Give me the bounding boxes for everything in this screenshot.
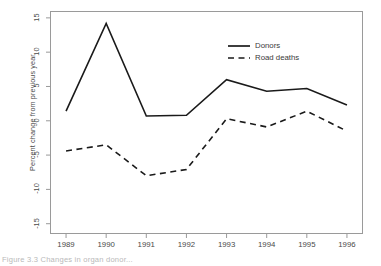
- solid-line-key: [228, 41, 250, 51]
- y-tick-label: 10: [32, 42, 41, 62]
- y-tick-label: 5: [32, 76, 41, 96]
- series-line-road-deaths: [66, 111, 347, 175]
- y-tick-label: -15: [32, 213, 41, 233]
- y-tick-label: 15: [32, 7, 41, 27]
- plot-lines: [50, 11, 363, 234]
- dashed-line-key: [228, 53, 250, 63]
- x-tick-label: 1991: [126, 240, 166, 249]
- y-tick-label: 0: [32, 110, 41, 130]
- x-tick-label: 1993: [207, 240, 247, 249]
- series-line-donors: [66, 23, 347, 116]
- legend-item-road-deaths: Road deaths: [228, 52, 299, 64]
- y-tick-label: -5: [32, 145, 41, 165]
- x-tick-label: 1990: [86, 240, 126, 249]
- x-tick-label: 1996: [327, 240, 367, 249]
- x-tick-label: 1995: [287, 240, 327, 249]
- x-tick-label: 1989: [46, 240, 86, 249]
- legend-item-donors: Donors: [228, 40, 299, 52]
- y-tick-label: -10: [32, 179, 41, 199]
- legend-label-road-deaths: Road deaths: [255, 53, 299, 63]
- chart-figure: Percent change from previous year Donors…: [0, 0, 381, 266]
- x-tick-label: 1992: [166, 240, 206, 249]
- legend-label-donors: Donors: [255, 41, 280, 51]
- figure-caption: Figure 3.3 Changes in organ donor...: [2, 255, 133, 264]
- x-tick-label: 1994: [247, 240, 287, 249]
- chart-legend: Donors Road deaths: [228, 40, 299, 64]
